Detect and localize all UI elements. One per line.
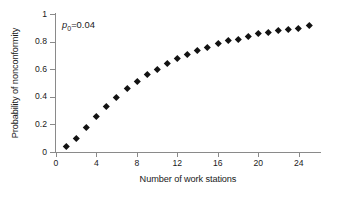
x-axis-label: Number of work stations <box>56 174 320 184</box>
y-tick-label: 0.2 <box>16 120 47 129</box>
y-tick-mark <box>50 14 55 15</box>
x-tick-label: 20 <box>246 159 270 168</box>
y-tick-mark <box>50 124 55 125</box>
x-tick-label: 0 <box>44 159 68 168</box>
annotation-value: 0.04 <box>77 19 95 30</box>
y-tick-label: 0.6 <box>16 65 47 74</box>
x-tick-mark <box>96 153 97 157</box>
y-tick-label: 0.4 <box>16 92 47 101</box>
x-tick-label: 4 <box>84 159 108 168</box>
x-axis-line <box>55 152 321 153</box>
x-tick-label: 12 <box>165 159 189 168</box>
x-tick-mark <box>258 153 259 157</box>
x-tick-mark <box>137 153 138 157</box>
x-tick-label: 24 <box>287 159 311 168</box>
chart-figure: Probability of nonconformity Number of w… <box>0 0 339 197</box>
y-tick-label: 0.8 <box>16 37 47 46</box>
x-tick-label: 16 <box>206 159 230 168</box>
y-tick-mark <box>50 69 55 70</box>
annotation-p0: p0=0.04 <box>62 19 95 35</box>
y-tick-label: 0 <box>16 148 47 157</box>
y-tick-mark <box>50 152 55 153</box>
x-tick-label: 8 <box>125 159 149 168</box>
y-tick-mark <box>50 97 55 98</box>
y-tick-label: 1 <box>16 10 47 19</box>
y-axis-label: Probability of nonconformity <box>8 7 22 159</box>
x-tick-mark <box>299 153 300 157</box>
x-tick-mark <box>218 153 219 157</box>
y-tick-mark <box>50 42 55 43</box>
x-tick-mark <box>56 153 57 157</box>
plot-area <box>56 14 320 152</box>
x-tick-mark <box>177 153 178 157</box>
